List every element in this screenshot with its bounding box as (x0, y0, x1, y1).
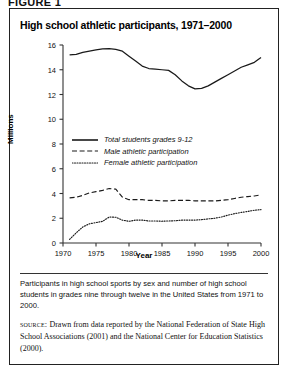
y-axis-tick-label: 10 (34, 115, 56, 124)
legend-line-sample-dotted (72, 159, 98, 167)
x-axis-tick-label: 1985 (149, 249, 175, 258)
legend-label: Female athletic participation (104, 158, 197, 167)
legend-item: Total students grades 9-12 (72, 134, 197, 146)
y-axis-tick-label: 16 (34, 41, 56, 50)
source-kicker: source: (20, 320, 47, 329)
source-text: Drawn from data reported by the National… (20, 320, 265, 353)
y-axis-tick-label: 2 (34, 214, 56, 223)
y-axis-tick-label: 0 (34, 239, 56, 248)
chart-plot-region: Millions Year 0246810121416 197019751980… (10, 39, 278, 264)
legend-line-sample-solid (72, 136, 98, 144)
y-axis-tick-label: 12 (34, 90, 56, 99)
x-axis-tick-label: 1980 (116, 249, 142, 258)
y-axis-tick-label: 6 (34, 164, 56, 173)
series-line-2 (70, 210, 261, 240)
x-axis-tick-label: 1975 (83, 249, 109, 258)
legend-label: Total students grades 9-12 (104, 135, 193, 144)
figure-caption: Participants in high school sports by se… (20, 279, 270, 311)
x-axis-tick-label: 2000 (248, 249, 274, 258)
legend-line-sample-dashed (72, 147, 98, 155)
legend-item: Female athletic participation (72, 157, 197, 169)
x-axis-tick-label: 1970 (50, 249, 76, 258)
figure-source-note: source: Drawn from data reported by the … (20, 319, 270, 354)
caption-divider (20, 273, 268, 274)
y-axis-title: Millions (6, 114, 15, 144)
y-axis-tick-label: 14 (34, 65, 56, 74)
figure-label: FIGURE 1 (8, 0, 61, 8)
chart-legend: Total students grades 9-12Male athletic … (72, 134, 197, 169)
x-axis-tick-label: 1995 (215, 249, 241, 258)
figure-box: High school athletic participants, 1971–… (9, 8, 279, 365)
x-axis-tick-label: 1990 (182, 249, 208, 258)
series-line-1 (70, 189, 261, 201)
y-axis-tick-label: 8 (34, 140, 56, 149)
y-axis-tick-label: 4 (34, 189, 56, 198)
chart-title: High school athletic participants, 1971–… (20, 19, 232, 31)
legend-label: Male athletic participation (104, 147, 189, 156)
series-line-0 (70, 49, 261, 89)
legend-item: Male athletic participation (72, 146, 197, 158)
